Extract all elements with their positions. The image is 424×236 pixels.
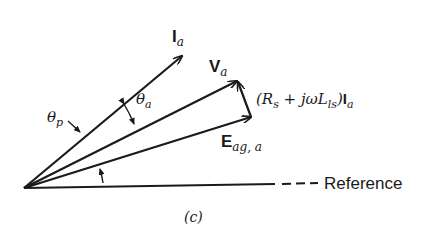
theta-p-label: θp	[47, 108, 63, 129]
theta-a-angle-arrow	[124, 104, 134, 124]
impedance-drop-arrow	[238, 82, 251, 117]
figure-caption: (c)	[184, 209, 203, 225]
impedance-drop-label: (Rs + jωLls)Ia	[256, 90, 354, 111]
va-phasor-arrow	[24, 81, 237, 188]
theta-a-label: θa	[136, 90, 152, 111]
reference-axis	[24, 183, 318, 188]
theta-p-pointer-arrow	[68, 121, 80, 132]
ia-label: Ia	[172, 27, 184, 49]
reference-label: Reference	[324, 174, 402, 193]
eag-label: Eag, a	[221, 132, 262, 154]
load-angle-arrow	[100, 169, 103, 183]
phasor-diagram: Reference Ia Va Eag, a (Rs + jωLls)Ia θa…	[0, 0, 424, 236]
va-label: Va	[209, 57, 228, 79]
